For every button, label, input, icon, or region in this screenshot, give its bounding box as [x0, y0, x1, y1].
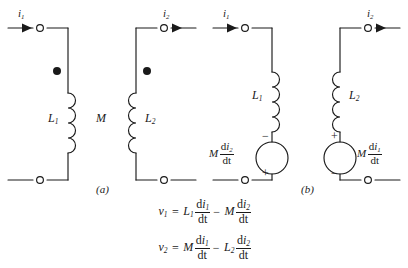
- source-left-derivative-fraction: di2 dt: [220, 141, 234, 166]
- dependent-source-left-circle: [256, 142, 288, 174]
- equation-v2-equals: =: [172, 242, 179, 254]
- equation-v1-term2-fraction: di2 dt: [236, 198, 251, 225]
- equation-v2-lhs: v2: [158, 241, 167, 254]
- current-arrowhead-b-i2: [376, 24, 386, 33]
- terminal-b-left-bottom: [242, 177, 249, 184]
- equation-v1-term1-fraction: di1 dt: [195, 198, 210, 225]
- part-a-caption: (a): [96, 184, 109, 195]
- equation-list: v1 = L1 di1 dt − M di2 dt: [0, 198, 408, 261]
- inductor-label-b-L2: L2: [349, 89, 359, 102]
- equation-v1: v1 = L1 di1 dt − M di2 dt: [157, 198, 251, 225]
- source-left-coefficient: M: [209, 148, 218, 159]
- source-right-sign-top: +: [331, 130, 338, 142]
- inductor-L2-coil-a: [129, 93, 136, 153]
- terminal-a-left-bottom: [37, 177, 44, 184]
- equation-v1-term1-coefficient: L1: [183, 205, 193, 218]
- inductor-L2-coil-b: [333, 72, 340, 132]
- equation-v2: v2 = M di1 dt − L2 di2 dt: [157, 234, 251, 261]
- equation-v1-equals: =: [172, 206, 179, 218]
- current-label-a-i1: i1: [18, 8, 24, 20]
- current-label-b-i2: i2: [367, 8, 373, 20]
- inductor-label-b-L1: L1: [252, 89, 262, 102]
- part-b-caption: (b): [301, 184, 314, 195]
- circuit-figure: i1 i2 L1 M L2 (a) i1 i2 L1 L2 − + + − M …: [0, 0, 408, 268]
- terminal-b-left-top: [242, 25, 249, 32]
- equation-v2-term2-operator: −: [213, 242, 220, 254]
- source-left-sign-top: −: [262, 130, 269, 142]
- equation-v1-lhs: v1: [158, 205, 167, 218]
- source-right-sign-bottom: −: [331, 167, 338, 179]
- current-label-b-i1: i1: [223, 8, 229, 20]
- source-left-expression: M di2 dt: [209, 141, 234, 166]
- terminal-b-right-top: [365, 25, 372, 32]
- polarity-dot-right: [143, 67, 151, 75]
- current-arrowhead-a-i1: [22, 24, 32, 33]
- source-right-derivative-fraction: di1 dt: [368, 141, 382, 166]
- polarity-dot-left: [53, 67, 61, 75]
- current-label-a-i2: i2: [163, 8, 169, 20]
- current-arrowhead-a-i2: [172, 24, 182, 33]
- mutual-inductance-label-M: M: [96, 112, 106, 124]
- equation-v2-term1-fraction: di1 dt: [195, 234, 210, 261]
- equation-v2-term2-fraction: di2 dt: [236, 234, 251, 261]
- inductor-L1-coil-a: [68, 93, 76, 153]
- current-arrowhead-b-i1: [227, 24, 237, 33]
- equation-v2-term1-coefficient: M: [183, 241, 193, 254]
- inductor-L1-coil-b: [272, 72, 280, 132]
- terminal-a-right-top: [161, 25, 168, 32]
- equation-v2-term2-coefficient: L2: [224, 241, 234, 254]
- terminal-b-right-bottom: [365, 177, 372, 184]
- terminal-a-right-bottom: [161, 177, 168, 184]
- dependent-source-right-circle: [324, 142, 356, 174]
- equation-v1-term2-operator: −: [213, 206, 220, 218]
- source-right-coefficient: M: [357, 148, 366, 159]
- source-right-expression: M di1 dt: [357, 141, 382, 166]
- terminal-a-left-top: [37, 25, 44, 32]
- source-left-sign-bottom: +: [262, 167, 269, 179]
- inductor-label-a-L1: L1: [48, 112, 58, 125]
- equation-v1-term2-coefficient: M: [225, 205, 235, 218]
- inductor-label-a-L2: L2: [145, 112, 155, 125]
